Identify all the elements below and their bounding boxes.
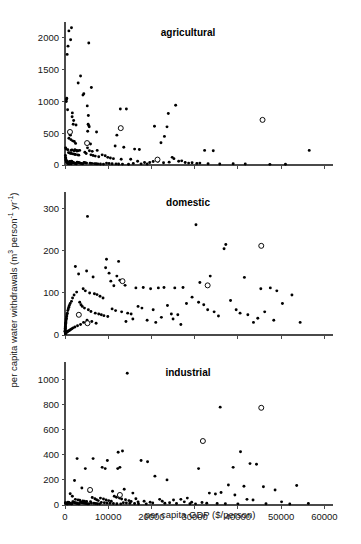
data-point: [104, 467, 107, 470]
data-point: [87, 308, 90, 311]
data-point: [246, 313, 249, 316]
data-point: [229, 299, 232, 302]
data-point: [265, 502, 268, 505]
data-point: [80, 487, 83, 490]
data-point: [168, 501, 171, 504]
panel-agricultural: 0500100015002000agricultural: [38, 22, 333, 170]
data-point: [87, 42, 90, 45]
data-point: [132, 162, 135, 165]
data-point: [259, 287, 262, 290]
panel-group: 0500100015002000agricultural0100200300do…: [38, 22, 338, 522]
data-point: [90, 502, 93, 505]
data-point: [173, 286, 176, 289]
data-point: [120, 158, 123, 161]
data-point: [172, 318, 175, 321]
data-point: [236, 502, 239, 505]
y-tick-label: 100: [43, 287, 59, 298]
data-point: [104, 154, 107, 157]
y-tick-label: 0: [54, 159, 59, 170]
data-point: [76, 324, 79, 327]
data-point: [185, 302, 188, 305]
data-point: [152, 160, 155, 163]
data-point: [86, 215, 89, 218]
x-tick-label: 30000: [181, 511, 207, 522]
data-point: [187, 162, 190, 165]
data-point: [100, 501, 103, 504]
panel-industrial: 0100002000030000400005000060000020040060…: [38, 362, 338, 522]
data-point-open: [259, 405, 264, 410]
data-point: [170, 313, 173, 316]
y-tick-label: 500: [43, 128, 59, 139]
data-point: [295, 484, 298, 487]
data-point: [197, 467, 200, 470]
series-highlighted-open: [88, 405, 264, 497]
data-point: [137, 305, 140, 308]
data-point: [88, 149, 91, 152]
data-point: [112, 284, 115, 287]
data-point: [77, 273, 80, 276]
data-point-open: [205, 283, 210, 288]
data-point: [308, 149, 311, 152]
data-point: [115, 275, 118, 278]
data-point: [71, 111, 74, 114]
data-point: [166, 478, 169, 481]
data-point: [180, 159, 183, 162]
data-point: [117, 163, 120, 166]
panel-title: industrial: [165, 367, 210, 378]
data-point: [160, 141, 163, 144]
data-point-open: [259, 243, 264, 248]
data-point: [103, 501, 106, 504]
data-point: [167, 112, 170, 115]
x-tick-label: 20000: [138, 511, 164, 522]
data-point: [90, 86, 93, 89]
y-tick-label: 0: [54, 329, 59, 340]
data-point: [176, 313, 179, 316]
data-point: [106, 459, 109, 462]
data-point: [109, 502, 112, 505]
data-point: [202, 303, 205, 306]
data-point: [284, 163, 287, 166]
data-point: [191, 161, 194, 164]
data-point: [137, 502, 140, 505]
data-point: [168, 161, 171, 164]
data-point: [161, 500, 164, 503]
data-point: [205, 502, 208, 505]
x-tick-label: 60000: [311, 511, 337, 522]
data-point: [125, 320, 128, 323]
y-axis-title-part1: per capita water withdrawals (m: [8, 254, 19, 388]
data-point: [179, 323, 182, 326]
data-point: [233, 494, 236, 497]
data-point: [244, 163, 247, 166]
data-point: [106, 156, 109, 159]
series-countries-filled: [64, 372, 310, 506]
data-point: [94, 155, 97, 158]
series-countries-filled: [64, 215, 302, 335]
data-point: [219, 406, 222, 409]
data-point: [64, 332, 67, 335]
data-point: [198, 281, 201, 284]
data-point: [172, 499, 175, 502]
data-point: [280, 500, 283, 503]
data-point: [246, 498, 249, 501]
data-point: [96, 162, 99, 165]
data-point: [201, 501, 204, 504]
data-point: [99, 163, 102, 166]
data-point: [83, 307, 86, 310]
data-point: [126, 312, 129, 315]
data-point: [96, 149, 99, 152]
data-point: [307, 502, 310, 505]
data-point: [188, 502, 191, 505]
panel-title: domestic: [166, 197, 210, 208]
data-point: [121, 450, 124, 453]
data-point: [179, 498, 182, 501]
data-point: [136, 160, 139, 163]
data-point: [95, 131, 98, 134]
data-point: [99, 295, 102, 298]
data-point: [105, 162, 108, 165]
data-point: [252, 499, 255, 502]
y-tick-label: 0: [54, 499, 59, 510]
data-point: [133, 148, 136, 151]
data-point: [177, 160, 180, 163]
data-point: [206, 308, 209, 311]
figure-scatter-panels: per capita water withdrawals (m3 person-…: [0, 0, 361, 544]
